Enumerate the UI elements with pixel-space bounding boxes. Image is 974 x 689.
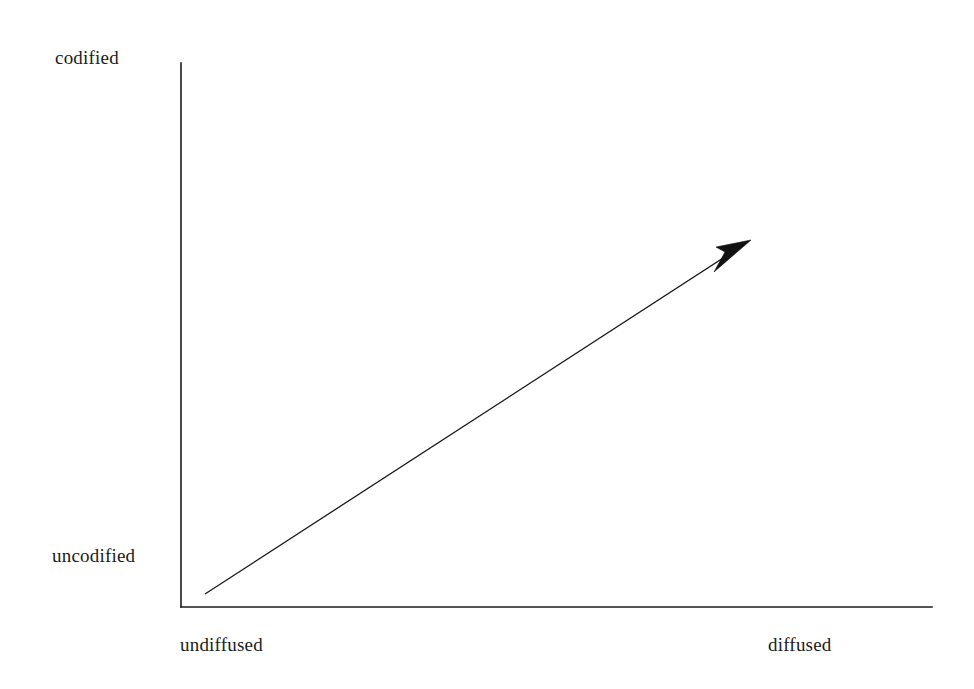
- x-axis-left-label: undiffused: [180, 635, 263, 654]
- diagram-canvas: codified uncodified undiffused diffused: [0, 0, 974, 689]
- y-axis-top-label: codified: [55, 48, 119, 67]
- trajectory-arrow-head: [714, 240, 751, 272]
- diagram-svg: [0, 0, 974, 689]
- x-axis-right-label: diffused: [768, 635, 832, 654]
- trajectory-arrow-shaft: [205, 249, 737, 594]
- y-axis-bottom-label: uncodified: [52, 546, 135, 565]
